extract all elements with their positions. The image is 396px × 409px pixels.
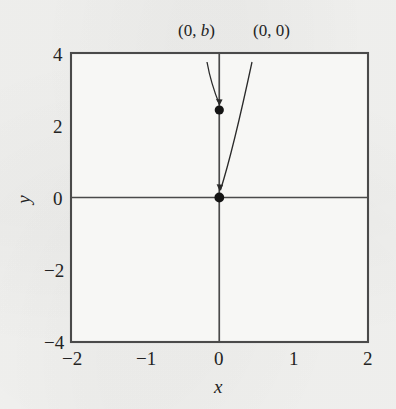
- x-tick-label--1: −1: [136, 349, 156, 368]
- point-0-0-dot: [214, 193, 224, 203]
- point-0-b-dot: [215, 105, 224, 114]
- annotation-0-b-prefix: (0,: [178, 21, 201, 40]
- x-tick-label-2: 2: [363, 349, 373, 368]
- annotation-0-0-suffix: ): [284, 21, 290, 40]
- annotation-0-0-prefix: (0,: [253, 21, 276, 40]
- y-tick-label--4: −4: [44, 333, 64, 352]
- y-tick-label-0: 0: [53, 189, 63, 208]
- x-tick-label--2: −2: [62, 349, 82, 368]
- annotation-label-0-b: (0, b): [178, 22, 215, 39]
- x-tick-label-0: 0: [214, 349, 224, 368]
- annotation-0-0-var: 0: [276, 21, 285, 40]
- x-tick-label-1: 1: [289, 349, 299, 368]
- y-axis-label: y: [14, 195, 33, 203]
- annotation-0-b-suffix: ): [209, 21, 215, 40]
- slope-field-figure: −2 −1 0 1 2 4 2 0 −2 −4 x y (0, b) (0, 0…: [0, 0, 396, 409]
- x-axis-label: x: [214, 377, 222, 396]
- y-tick-label-4: 4: [53, 45, 63, 64]
- annotation-label-0-0: (0, 0): [253, 22, 290, 39]
- y-tick-label--2: −2: [44, 261, 64, 280]
- y-tick-label-2: 2: [53, 117, 63, 136]
- annotation-0-b-var: b: [201, 21, 210, 40]
